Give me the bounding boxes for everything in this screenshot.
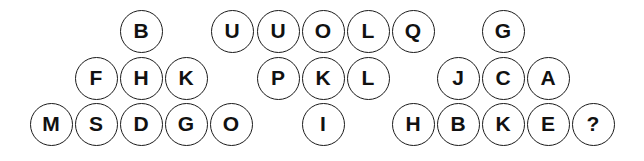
missing-letter-circle: ? <box>572 103 615 146</box>
letter-circle: U <box>211 10 254 53</box>
letter-circle: E <box>527 103 570 146</box>
letter-circle-puzzle: BFHKMSDGOUUOLQPKLIGJCAHBKE? <box>0 0 644 161</box>
letter-circle: C <box>482 57 525 100</box>
letter-circle: D <box>120 103 163 146</box>
letter-circle: M <box>30 103 73 146</box>
letter-circle: L <box>347 10 390 53</box>
letter-circle: K <box>302 57 345 100</box>
letter-circle: K <box>482 103 525 146</box>
letter-circle: S <box>75 103 118 146</box>
letter-circle: H <box>392 103 435 146</box>
letter-circle: Q <box>392 10 435 53</box>
letter-circle: I <box>302 103 345 146</box>
letter-circle: O <box>302 10 345 53</box>
letter-circle: H <box>120 57 163 100</box>
letter-circle: F <box>75 57 118 100</box>
letter-circle: J <box>437 57 480 100</box>
letter-circle: G <box>482 10 525 53</box>
letter-circle: B <box>120 10 163 53</box>
letter-circle: A <box>527 57 570 100</box>
letter-circle: U <box>257 10 300 53</box>
letter-circle: B <box>437 103 480 146</box>
letter-circle: L <box>347 57 390 100</box>
letter-circle: G <box>165 103 208 146</box>
letter-circle: O <box>210 103 253 146</box>
letter-circle: P <box>257 57 300 100</box>
letter-circle: K <box>165 57 208 100</box>
